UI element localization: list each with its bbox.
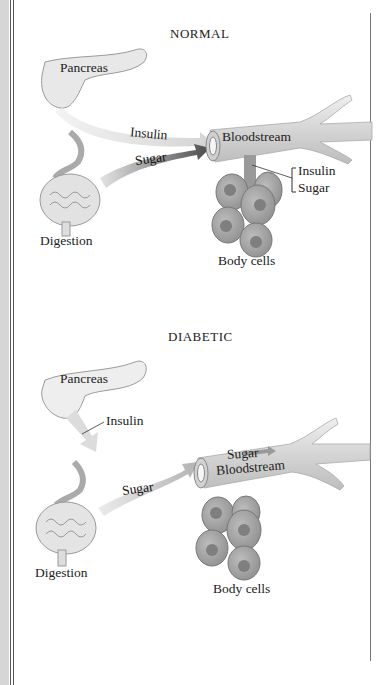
diabetic-pancreas-label: Pancreas [60, 371, 108, 387]
normal-title: NORMAL [170, 26, 229, 42]
diabetic-body-cells-label: Body cells [213, 581, 270, 597]
normal-bracket-insulin-label: Insulin [298, 163, 336, 179]
normal-body-cells-illustration [212, 172, 282, 257]
diabetic-insulin-arrow [66, 410, 104, 452]
diabetic-bloodstream-vessel [194, 418, 370, 490]
diabetic-title: DIABETIC [168, 329, 233, 345]
normal-bracket-sugar-label: Sugar [298, 180, 330, 196]
normal-insulin-label: Insulin [129, 124, 168, 143]
normal-digestion-label: Digestion [40, 233, 93, 249]
normal-bloodstream-label: Bloodstream [222, 129, 291, 145]
normal-pancreas-label: Pancreas [60, 60, 108, 76]
diabetic-digestion-label: Digestion [35, 565, 88, 581]
diabetic-pancreas-illustration [42, 361, 147, 418]
normal-digestion-illustration [40, 132, 100, 236]
normal-body-cells-label: Body cells [218, 253, 275, 269]
normal-pancreas-illustration [42, 49, 147, 108]
diabetic-insulin-label: Insulin [106, 413, 144, 429]
diabetic-body-cells-illustration [196, 496, 261, 580]
diabetic-digestion-illustration [36, 462, 96, 566]
